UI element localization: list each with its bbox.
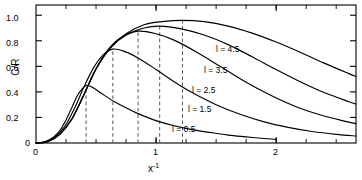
chart-figure: 1.0 0.8 0.6 0.4 0.2 0 0 1 2 C/R x-1 l = …: [0, 0, 362, 180]
curve-l-4-5: [36, 20, 356, 143]
y-tick-label-02: 0.2: [6, 114, 19, 123]
x-tick-label-0: 0: [33, 148, 38, 157]
curve-label-l45: l = 4.5: [216, 45, 239, 54]
plot-frame: [36, 5, 356, 143]
plot-canvas: [0, 0, 362, 180]
y-major-ticks: [36, 15, 356, 117]
x-tick-label-1: 1: [153, 148, 158, 157]
curve-label-l25: l = 2.5: [192, 86, 215, 95]
y-tick-label-1: 1.0: [6, 14, 19, 23]
curve-label-l35: l = 3.5: [204, 66, 227, 75]
y-axis-title: C/R: [11, 47, 21, 87]
x-tick-label-2: 2: [273, 148, 278, 157]
x-axis-title: x-1: [148, 162, 159, 174]
curve-label-l15: l = 1.5: [188, 105, 211, 114]
x-minor-ticks: [66, 5, 336, 143]
data-curves: [36, 20, 356, 143]
y-tick-label-04: 0.4: [6, 89, 19, 98]
curve-label-l05: l = 0.5: [172, 125, 195, 134]
y-tick-label-0: 0: [25, 139, 30, 148]
curve-l-1-5: [36, 49, 356, 143]
